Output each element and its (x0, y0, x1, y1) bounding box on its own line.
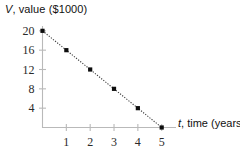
y-tick-label: 20 (23, 24, 35, 38)
y-tick-label: 4 (29, 101, 35, 115)
x-axis: 12345 (43, 124, 177, 149)
x-tick-label: 4 (135, 135, 141, 149)
x-tick-labels: 12345 (63, 135, 164, 149)
x-tick-label: 2 (87, 135, 93, 149)
y-axis: 48121620 (23, 24, 47, 128)
data-point-marker (112, 87, 116, 91)
x-tick-label: 5 (159, 135, 165, 149)
y-tick-label: 12 (23, 63, 35, 77)
plot-area: 48121620 12345 (0, 0, 240, 158)
chart-figure: V, value ($1000) t, time (years) 4812162… (0, 0, 240, 158)
data-series (40, 29, 163, 130)
data-point-marker (160, 125, 164, 129)
y-tick-labels: 48121620 (23, 24, 35, 115)
series-line (43, 31, 162, 128)
data-point-marker (136, 106, 140, 110)
y-tick-label: 8 (29, 82, 35, 96)
data-point-marker (40, 29, 44, 33)
x-tick-label: 3 (111, 135, 117, 149)
y-tick-label: 16 (23, 43, 35, 57)
data-point-marker (64, 48, 68, 52)
data-point-marker (88, 67, 92, 71)
x-tick-label: 1 (63, 135, 69, 149)
